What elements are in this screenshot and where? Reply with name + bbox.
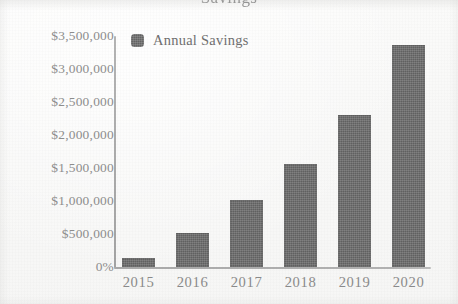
bar-2018[interactable] (284, 164, 317, 267)
x-axis-tick-label: 2018 (271, 275, 331, 290)
bar-2016[interactable] (176, 233, 209, 267)
y-axis-tick-label: $2,000,000 (6, 128, 114, 141)
bar-slot (392, 36, 425, 267)
y-axis-tick-label: $2,500,000 (6, 95, 114, 108)
bar-2020[interactable] (392, 45, 425, 267)
bar-series-annual-savings (114, 36, 431, 267)
bar-2015[interactable] (122, 258, 155, 267)
bar-2017[interactable] (230, 200, 263, 267)
y-axis-tick-label: $1,000,000 (6, 194, 114, 207)
bar-slot (284, 36, 317, 267)
bar-slot (338, 36, 371, 267)
bar-slot (176, 36, 209, 267)
x-axis-tick-label: 2015 (109, 275, 169, 290)
y-axis-tick-label: $3,500,000 (6, 29, 114, 42)
x-axis-tick-label: 2017 (217, 275, 277, 290)
x-axis-tick-label: 2019 (325, 275, 385, 290)
chart-legend: Annual Savings (131, 33, 249, 48)
legend-swatch-icon (131, 34, 144, 47)
bar-slot (230, 36, 263, 267)
chart-page: Savings $3,500,000$3,000,000$2,500,000$2… (0, 0, 458, 304)
x-axis-tick-label: 2020 (379, 275, 439, 290)
y-axis-tick-label: $1,500,000 (6, 161, 114, 174)
x-axis-tick-label: 2016 (163, 275, 223, 290)
y-axis-tick-label: $500,000 (6, 227, 114, 240)
legend-label: Annual Savings (153, 33, 249, 48)
bar-slot (122, 36, 155, 267)
y-axis-tick-label: $3,000,000 (6, 62, 114, 75)
bar-2019[interactable] (338, 115, 371, 267)
x-axis-line (114, 267, 431, 269)
y-axis-tick-label: 0% (6, 260, 114, 273)
